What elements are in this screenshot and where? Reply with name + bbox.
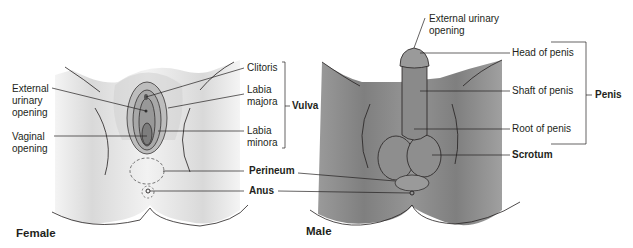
label-female-external-urinary-opening: External urinary opening (12, 83, 49, 119)
label-vulva: Vulva (292, 100, 318, 112)
label-perineum: Perineum (249, 165, 295, 177)
label-anus: Anus (249, 185, 274, 197)
label-scrotum: Scrotum (512, 149, 553, 161)
title-female: Female (16, 227, 56, 239)
label-root-of-penis: Root of penis (512, 123, 571, 135)
label-male-external-urinary-opening: External urinary opening (429, 13, 499, 37)
label-clitoris: Clitoris (247, 62, 278, 74)
label-shaft-of-penis: Shaft of penis (512, 85, 573, 97)
label-labia-majora: Labia majora (247, 84, 278, 108)
male-body (310, 48, 520, 225)
label-penis: Penis (595, 89, 622, 101)
title-male: Male (306, 225, 332, 237)
female-body (52, 60, 248, 226)
label-vaginal-opening: Vaginal opening (12, 131, 48, 155)
label-labia-minora: Labia minora (247, 125, 278, 149)
label-head-of-penis: Head of penis (512, 47, 574, 59)
